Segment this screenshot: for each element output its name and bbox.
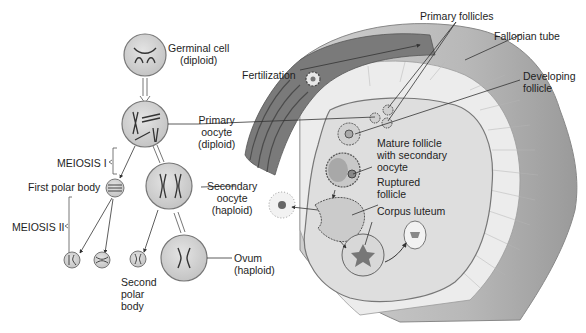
label-fertilization: Fertilization (242, 69, 296, 81)
label-ruptured-follicle: Ruptured follicle (377, 176, 420, 200)
label-meiosis-2: MEIOSIS II (12, 221, 65, 233)
label-fallopian-tube: Fallopian tube (494, 30, 560, 42)
label-line: (diploid) (168, 54, 229, 66)
secondary-oocyte (146, 163, 192, 209)
label-line: follicle (523, 82, 576, 94)
germinal-cell (124, 34, 166, 76)
label-second-polar-body: Second polar body (121, 276, 157, 312)
label-line: body (121, 300, 157, 312)
label-first-polar-body: First polar body (28, 181, 100, 193)
label-line: oocyte (198, 126, 235, 138)
label-line: Secondary (207, 180, 257, 192)
label-line: Developing (523, 70, 576, 82)
primary-oocyte (122, 101, 168, 147)
ovum (161, 235, 207, 281)
label-secondary-oocyte: Secondary oocyte (haploid) (207, 180, 257, 216)
label-line: Ovum (234, 252, 275, 264)
label-line: (haploid) (207, 204, 257, 216)
label-line: Ruptured (377, 176, 420, 188)
label-line: Second (121, 276, 157, 288)
second-polar-body (130, 251, 146, 267)
polar-body-2 (94, 252, 110, 268)
label-line: oocyte (377, 161, 447, 173)
label-primary-oocyte: Primary oocyte (diploid) (198, 114, 235, 150)
label-primary-follicles: Primary follicles (420, 10, 494, 22)
label-developing-follicle: Developing follicle (523, 70, 576, 94)
label-line: polar (121, 288, 157, 300)
label-mature-follicle: Mature follicle with secondary oocyte (377, 137, 447, 173)
polar-body-1 (64, 252, 80, 268)
label-corpus-luteum: Corpus luteum (377, 205, 445, 217)
label-line: with secondary (377, 149, 447, 161)
label-line: (diploid) (198, 138, 235, 150)
label-germinal-cell: Germinal cell (diploid) (168, 42, 229, 66)
label-line: Mature follicle (377, 137, 447, 149)
label-line: Primary (198, 114, 235, 126)
label-ovum: Ovum (haploid) (234, 252, 275, 276)
label-line: (haploid) (234, 264, 275, 276)
label-line: oocyte (207, 192, 257, 204)
label-line: follicle (377, 188, 420, 200)
label-line: Germinal cell (168, 42, 229, 54)
label-meiosis-1: MEIOSIS I (57, 157, 107, 169)
